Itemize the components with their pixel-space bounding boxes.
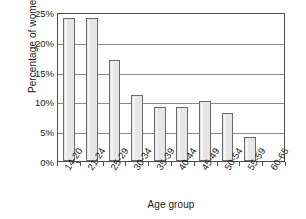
y-tick-label: 25% xyxy=(22,8,54,19)
x-tick-mark xyxy=(285,162,286,166)
bar-category xyxy=(216,14,239,161)
y-axis-tick-labels: 0%5%10%15%20%25% xyxy=(22,13,54,162)
bar-category xyxy=(239,14,262,161)
bar-category xyxy=(126,14,149,161)
plot-area xyxy=(57,13,285,162)
bar-series xyxy=(58,14,284,161)
bar-category xyxy=(261,14,284,161)
y-tick-label: 20% xyxy=(22,37,54,48)
y-tick-label: 10% xyxy=(22,97,54,108)
x-axis-tick-labels: 14-2021-2425-2930-3435-3940-4445-4950-54… xyxy=(57,166,285,198)
y-tick-label: 15% xyxy=(22,67,54,78)
bar xyxy=(86,18,98,161)
y-tick-label: 0% xyxy=(22,157,54,168)
bar-chart-figure: Percentage of women 0%5%10%15%20%25% 14-… xyxy=(0,0,306,219)
bar-category xyxy=(148,14,171,161)
bar-category xyxy=(103,14,126,161)
y-tick-label: 5% xyxy=(22,127,54,138)
bar-category xyxy=(81,14,104,161)
bar-category xyxy=(58,14,81,161)
bar-category xyxy=(194,14,217,161)
bar xyxy=(63,18,75,161)
bar xyxy=(109,60,121,161)
bar-category xyxy=(171,14,194,161)
x-axis-title: Age group xyxy=(57,199,285,210)
